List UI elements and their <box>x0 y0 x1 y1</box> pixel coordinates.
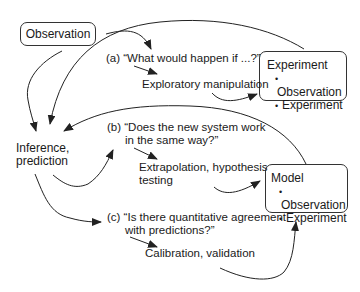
question-b-line2: in the same way?” <box>107 134 266 147</box>
experiment-node: Experiment Observation Experiment <box>259 51 347 101</box>
question-b-line1: (b) “Does the new system work <box>107 121 266 134</box>
question-a: (a) “What would happen if ...?” <box>106 52 261 65</box>
arrow-question-b-to-extrapolation <box>134 148 157 159</box>
question-c-line1: (c) “Is there quantitative agreement <box>107 211 286 224</box>
observation-node: Observation <box>20 22 96 46</box>
experiment-item-observation: Observation <box>267 72 346 99</box>
observation-label: Observation <box>26 27 91 41</box>
arrow-question-c-to-calibration <box>130 237 157 247</box>
question-b: (b) “Does the new system work in the sam… <box>107 121 266 147</box>
arrow-exploratory-to-experiment <box>212 93 257 101</box>
question-c-line2: with predictions?” <box>107 224 286 237</box>
outcome-exploratory-manipulation: Exploratory manipulation <box>142 78 269 91</box>
arrow-observation-to-inference <box>27 51 62 131</box>
outcome-extrapolation-line2: testing <box>139 174 268 187</box>
experiment-item-experiment: Experiment <box>267 99 346 113</box>
model-title: Model <box>271 172 347 185</box>
inference-node: Inference, prediction <box>16 142 69 168</box>
inference-line2: prediction <box>16 155 69 168</box>
outcome-calibration-validation: Calibration, validation <box>145 247 255 260</box>
outcome-extrapolation-line1: Extrapolation, hypothesis <box>139 161 268 174</box>
model-item-observation: Observation <box>271 185 347 212</box>
model-node: Model Observation Experiment <box>265 164 348 213</box>
outcome-extrapolation: Extrapolation, hypothesis testing <box>139 161 268 187</box>
arrow-question-a-to-exploratory <box>134 66 157 74</box>
experiment-title: Experiment <box>267 59 346 72</box>
question-c: (c) “Is there quantitative agreement wit… <box>107 211 286 237</box>
arrow-observation-to-question-a <box>106 31 151 49</box>
